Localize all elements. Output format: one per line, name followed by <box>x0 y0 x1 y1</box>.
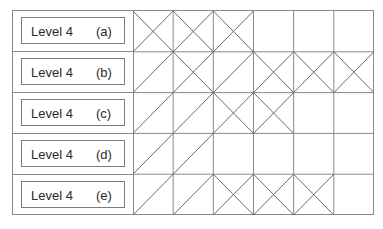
row-b: Level 4 (b) <box>13 52 133 93</box>
diagonal-slash <box>133 133 173 174</box>
diagonal-slash <box>173 133 213 174</box>
row-letter: (e) <box>96 188 112 203</box>
row-e: Level 4 (e) <box>13 175 133 216</box>
row-letter: (d) <box>96 147 112 162</box>
level-label: Level 4 <box>31 65 73 80</box>
level-label: Level 4 <box>31 24 73 39</box>
label-box-b: Level 4 (b) <box>21 58 125 85</box>
row-a: Level 4 (a) <box>13 11 133 52</box>
row-letter: (b) <box>96 65 112 80</box>
row-letter: (a) <box>96 24 112 39</box>
row-letter: (c) <box>96 106 111 121</box>
pattern-grid <box>133 11 374 215</box>
label-box-d: Level 4 (d) <box>21 140 125 167</box>
label-box-a: Level 4 (a) <box>21 17 125 44</box>
level-label: Level 4 <box>31 147 73 162</box>
level-label: Level 4 <box>31 106 73 121</box>
diagonal-slash <box>173 174 213 215</box>
label-box-e: Level 4 (e) <box>21 181 125 208</box>
row-d: Level 4 (d) <box>13 134 133 175</box>
row-c: Level 4 (c) <box>13 93 133 134</box>
diagonal-slash <box>133 93 173 134</box>
diagonal-slash <box>213 52 253 93</box>
label-box-c: Level 4 (c) <box>21 99 125 126</box>
diagonal-slash <box>133 52 173 93</box>
diagram-frame: Level 4 (a) Level 4 (b) Level 4 (c) Leve… <box>12 10 374 215</box>
diagonal-slash <box>173 93 213 134</box>
diagonal-slash <box>133 174 173 215</box>
level-label: Level 4 <box>31 188 73 203</box>
